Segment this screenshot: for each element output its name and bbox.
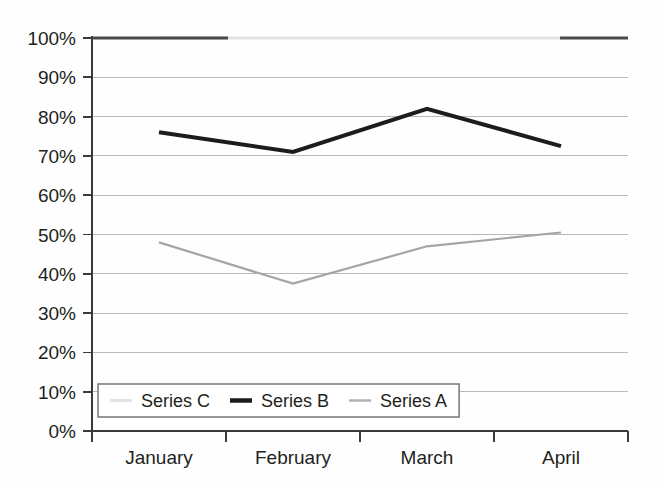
- y-axis-tick-label: 70%: [38, 146, 76, 167]
- legend-label-series-b[interactable]: Series B: [261, 391, 329, 411]
- y-axis-tick-label: 80%: [38, 107, 76, 128]
- y-axis-tick-label: 100%: [27, 28, 76, 49]
- y-axis-tick-label: 40%: [38, 264, 76, 285]
- y-axis-group: [83, 36, 92, 433]
- x-axis-tick-label: April: [542, 447, 580, 468]
- x-axis-tick-label: January: [125, 447, 193, 468]
- chart-legend[interactable]: Series CSeries BSeries A: [98, 384, 459, 417]
- chart-canvas: 0%10%20%30%40%50%60%70%80%90%100% Januar…: [0, 0, 666, 490]
- series-line-series-b: [159, 109, 561, 152]
- y-axis-tick-label: 30%: [38, 303, 76, 324]
- line-chart-figure: 0%10%20%30%40%50%60%70%80%90%100% Januar…: [0, 0, 666, 490]
- x-axis-tick-label: March: [401, 447, 454, 468]
- y-axis-tick-label: 20%: [38, 342, 76, 363]
- data-series-group: [92, 38, 628, 284]
- y-tick-marks: [83, 38, 92, 431]
- legend-label-series-c[interactable]: Series C: [141, 391, 210, 411]
- y-axis-tick-label: 90%: [38, 67, 76, 88]
- x-axis-group: [92, 431, 628, 442]
- y-axis-tick-labels: 0%10%20%30%40%50%60%70%80%90%100%: [27, 28, 76, 442]
- x-axis-tick-labels: JanuaryFebruaryMarchApril: [125, 447, 580, 468]
- y-axis-tick-label: 10%: [38, 382, 76, 403]
- x-axis-tick-label: February: [255, 447, 332, 468]
- legend-label-series-a[interactable]: Series A: [380, 391, 447, 411]
- y-axis-tick-label: 50%: [38, 225, 76, 246]
- y-axis-tick-label: 0%: [49, 421, 77, 442]
- y-axis-tick-label: 60%: [38, 185, 76, 206]
- series-line-series-a: [159, 233, 561, 284]
- x-tick-marks: [92, 431, 628, 442]
